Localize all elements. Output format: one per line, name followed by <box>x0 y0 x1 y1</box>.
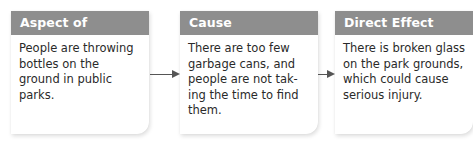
box-title: Cause <box>180 11 318 35</box>
arrow-icon <box>318 70 335 79</box>
box-direct-effect: Direct Effect There is broken glass on t… <box>335 11 473 134</box>
box-title: Aspect of Problem <box>11 11 149 35</box>
box-title: Direct Effect <box>335 11 473 35</box>
box-text: People are throwing bottles on the groun… <box>11 35 149 103</box>
box-text: There are too few garbage cans, and peop… <box>180 35 318 119</box>
box-cause: Cause There are too few garbage cans, an… <box>180 11 318 134</box>
box-aspect-of-problem: Aspect of Problem People are throwing bo… <box>11 11 149 134</box>
arrow-icon <box>150 70 180 79</box>
box-text: There is broken glass on the park ground… <box>335 35 473 103</box>
